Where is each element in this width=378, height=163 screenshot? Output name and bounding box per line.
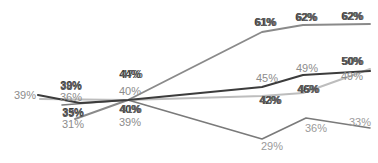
chart-plot-area (0, 0, 378, 163)
data-label: 50% (342, 56, 363, 67)
data-label: 31% (62, 119, 84, 130)
data-label: 29% (261, 141, 283, 152)
data-label: 36% (305, 123, 327, 134)
data-label: 49% (296, 63, 318, 74)
data-label: 40% (119, 86, 141, 97)
data-label: 45% (298, 84, 319, 95)
data-label: 61% (255, 17, 276, 28)
data-label: 47% (121, 69, 142, 80)
data-label: 62% (342, 11, 363, 22)
data-label: 33% (349, 117, 371, 128)
data-label: 41% (120, 104, 141, 115)
data-label: 39% (14, 90, 36, 101)
data-label: 43% (260, 95, 281, 106)
data-label: 62% (296, 12, 317, 23)
data-label: 36% (60, 92, 82, 103)
data-label: 45% (256, 73, 278, 84)
data-label: 49% (341, 71, 363, 82)
line-chart: 39%39%38%36%35%33%31%44%47%40%40%41%39%4… (0, 0, 378, 163)
data-label: 39% (119, 117, 141, 128)
